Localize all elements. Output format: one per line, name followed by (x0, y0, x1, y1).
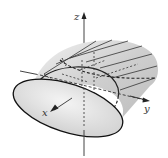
elliptic-cylinder-diagram (0, 0, 168, 158)
z-axis-label: z (74, 12, 79, 22)
y-axis-label: y (144, 104, 150, 114)
z-axis (82, 12, 87, 44)
y-axis-back (20, 71, 40, 75)
x-axis-label: x (42, 108, 48, 118)
